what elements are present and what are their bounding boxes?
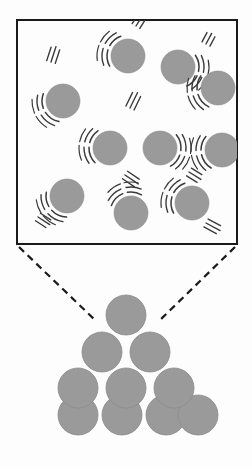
particle [50,179,84,213]
particle [93,131,127,165]
packed-particle [82,332,122,372]
packed-row [106,295,146,335]
particle [205,133,239,167]
particle [161,50,195,84]
particle-diagram-figure [0,0,252,469]
packed-particle [154,368,194,408]
packed-row [58,368,194,408]
diagram-canvas [0,0,252,469]
packed-particle [130,332,170,372]
particle [201,71,235,105]
particle [111,39,145,73]
particle [175,186,209,220]
packed-particle [106,295,146,335]
packed-particle [58,368,98,408]
packed-particle [106,368,146,408]
particle [114,196,148,230]
magnified-view-box [17,14,239,244]
particle [46,84,80,118]
particle [143,131,177,165]
